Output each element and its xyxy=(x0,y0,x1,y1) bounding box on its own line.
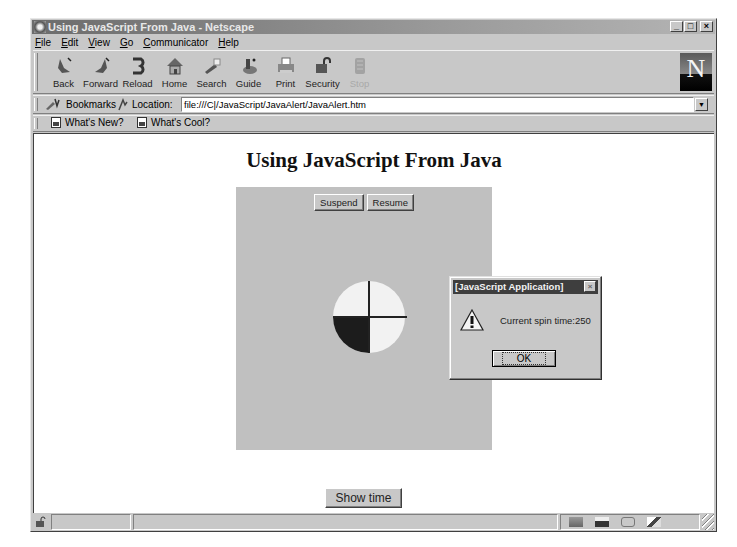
forward-button[interactable]: Forward xyxy=(82,54,119,92)
toolbar-grip[interactable] xyxy=(34,53,38,91)
dialog-close-button[interactable]: × xyxy=(584,281,596,292)
ok-button[interactable]: OK xyxy=(492,350,556,367)
composer-icon[interactable] xyxy=(647,517,661,527)
home-icon xyxy=(165,56,185,76)
menu-view[interactable]: View xyxy=(88,36,110,49)
status-message xyxy=(133,514,558,530)
menu-communicator[interactable]: Communicator xyxy=(143,36,208,49)
guide-icon xyxy=(239,56,259,76)
menu-bar: File Edit View Go Communicator Help xyxy=(33,36,714,49)
page-heading: Using JavaScript From Java xyxy=(34,148,714,173)
browser-window: Using JavaScript From Java - Netscape _ … xyxy=(30,18,717,532)
reload-icon xyxy=(128,56,148,76)
location-toolbar: Bookmarks Location: file:///C|/JavaScrip… xyxy=(33,95,714,114)
back-label: Back xyxy=(53,78,74,89)
dialog-title-bar[interactable]: [JavaScript Application] × xyxy=(453,280,598,294)
chevron-down-icon: ▼ xyxy=(698,101,705,108)
toolbar-grip[interactable] xyxy=(34,118,38,129)
bookmarks-button[interactable]: Bookmarks xyxy=(45,98,116,111)
printer-icon xyxy=(276,56,296,76)
maximize-button[interactable]: □ xyxy=(684,21,697,32)
stop-icon xyxy=(350,56,370,76)
home-button[interactable]: Home xyxy=(156,54,193,92)
stop-button[interactable]: Stop xyxy=(341,54,378,92)
navigator-icon[interactable] xyxy=(569,517,583,527)
menu-help[interactable]: Help xyxy=(218,36,239,49)
title-bar[interactable]: Using JavaScript From Java - Netscape _ … xyxy=(32,20,715,34)
show-time-button[interactable]: Show time xyxy=(325,488,402,508)
stop-label: Stop xyxy=(350,78,370,89)
location-dropdown-button[interactable]: ▼ xyxy=(695,98,708,111)
bookmark-page-icon xyxy=(137,117,147,128)
resize-grip[interactable] xyxy=(702,514,714,530)
whats-new-link[interactable]: What's New? xyxy=(51,117,124,128)
guide-label: Guide xyxy=(236,78,261,89)
personal-toolbar: What's New? What's Cool? xyxy=(33,115,714,132)
alert-message: Current spin time:250 xyxy=(500,315,591,326)
search-flashlight-icon xyxy=(202,56,222,76)
padlock-icon xyxy=(313,56,333,76)
search-label: Search xyxy=(196,78,226,89)
bookmarks-label: Bookmarks xyxy=(66,99,116,110)
resume-button[interactable]: Resume xyxy=(367,194,414,211)
guide-button[interactable]: Guide xyxy=(230,54,267,92)
suspend-button[interactable]: Suspend xyxy=(314,194,364,211)
reload-button[interactable]: Reload xyxy=(119,54,156,92)
minimize-button[interactable]: _ xyxy=(670,21,683,32)
security-label: Security xyxy=(305,78,339,89)
discussion-icon[interactable] xyxy=(621,517,635,527)
mail-icon[interactable] xyxy=(595,517,609,527)
page-content: Using JavaScript From Java Suspend Resum… xyxy=(33,133,714,513)
progress-bar xyxy=(51,514,131,530)
menu-go[interactable]: Go xyxy=(120,36,133,49)
whats-cool-link[interactable]: What's Cool? xyxy=(137,117,210,128)
spinner-wheel xyxy=(331,279,407,355)
security-button[interactable]: Security xyxy=(304,54,341,92)
page-proxy-icon[interactable] xyxy=(117,98,129,111)
home-label: Home xyxy=(162,78,187,89)
forward-label: Forward xyxy=(83,78,118,89)
netscape-app-icon xyxy=(34,21,46,33)
location-label: Location: xyxy=(117,98,173,111)
window-title: Using JavaScript From Java - Netscape xyxy=(48,21,254,33)
window-controls: _ □ × xyxy=(670,21,713,32)
forward-arrow-icon xyxy=(91,56,111,76)
print-label: Print xyxy=(276,78,296,89)
status-bar xyxy=(33,514,714,530)
bookmark-page-icon xyxy=(51,117,61,128)
location-url-input[interactable]: file:///C|/JavaScript/JavaAlert/JavaAler… xyxy=(181,97,694,112)
toolbar-grip[interactable] xyxy=(34,98,38,111)
back-arrow-icon xyxy=(54,56,74,76)
bookmarks-icon xyxy=(45,98,63,111)
javascript-alert-dialog: [JavaScript Application] × Current spin … xyxy=(449,276,602,380)
close-button[interactable]: × xyxy=(700,21,713,32)
print-button[interactable]: Print xyxy=(267,54,304,92)
netscape-logo[interactable]: N xyxy=(680,53,712,91)
search-button[interactable]: Search xyxy=(193,54,230,92)
reload-label: Reload xyxy=(122,78,152,89)
menu-file[interactable]: File xyxy=(35,36,51,49)
component-bar xyxy=(560,514,700,530)
menu-edit[interactable]: Edit xyxy=(61,36,78,49)
security-status-icon[interactable] xyxy=(33,514,49,530)
navigation-toolbar: Back Forward Reload Home xyxy=(33,50,714,94)
back-button[interactable]: Back xyxy=(45,54,82,92)
warning-icon xyxy=(460,309,484,331)
